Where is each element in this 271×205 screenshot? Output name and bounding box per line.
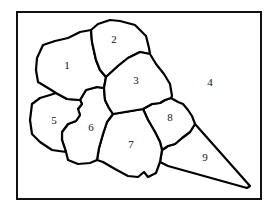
region-label-8: 8: [167, 111, 173, 123]
region-label-7: 7: [128, 138, 134, 150]
region-diagram: 1 2 3 4 5 6 7 8 9: [0, 0, 271, 205]
region-label-3: 3: [133, 74, 139, 86]
region-label-9: 9: [202, 151, 208, 163]
region-label-1: 1: [64, 59, 70, 71]
region-label-6: 6: [88, 121, 94, 133]
region-label-5: 5: [51, 114, 57, 126]
region-label-2: 2: [111, 33, 117, 45]
region-label-4: 4: [207, 76, 213, 88]
